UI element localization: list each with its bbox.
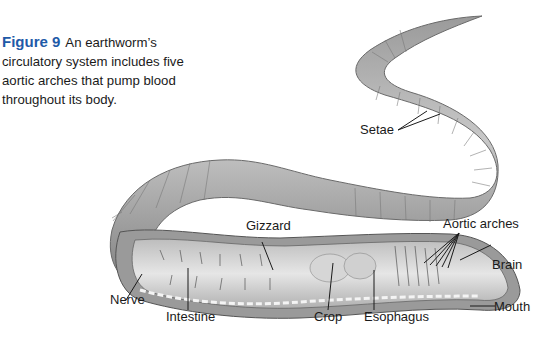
label-mouth: Mouth [494, 299, 530, 314]
label-crop: Crop [314, 309, 342, 324]
earthworm-illustration [0, 0, 559, 341]
label-nerve: Nerve [110, 292, 145, 307]
label-gizzard: Gizzard [246, 218, 291, 233]
label-aortic-arches: Aortic arches [443, 216, 519, 231]
label-intestine: Intestine [166, 309, 215, 324]
label-esophagus: Esophagus [364, 309, 429, 324]
label-setae: Setae [360, 122, 394, 137]
worm-cutaway [116, 230, 520, 318]
label-brain: Brain [492, 257, 522, 272]
